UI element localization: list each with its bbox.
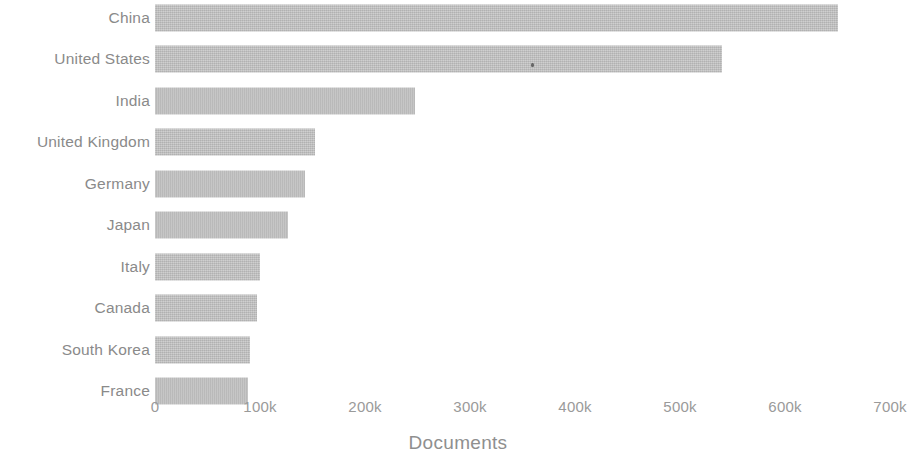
bar[interactable]: [155, 170, 305, 197]
x-axis-tick-label: 600k: [768, 398, 801, 415]
bar[interactable]: [155, 87, 415, 114]
bar[interactable]: [155, 4, 838, 31]
bar-category-label: China: [109, 9, 151, 27]
bar-track: [155, 170, 305, 197]
bar-row: United States: [0, 39, 916, 81]
x-axis-title: Documents: [0, 432, 916, 454]
bar-row: Japan: [0, 205, 916, 247]
x-axis-tick-label: 500k: [663, 398, 696, 415]
bar-category-label: South Korea: [62, 341, 150, 359]
bar-row: South Korea: [0, 329, 916, 371]
bar-track: [155, 87, 415, 114]
bar-track: [155, 129, 315, 156]
image-artifact-speck: [531, 63, 534, 67]
bar-row: United Kingdom: [0, 122, 916, 164]
bar-track: [155, 46, 722, 73]
bar-category-label: Germany: [85, 175, 150, 193]
x-axis-tick-label: 100k: [243, 398, 276, 415]
bar[interactable]: [155, 295, 257, 322]
bar-row: Italy: [0, 246, 916, 288]
x-axis-tick-label: 300k: [453, 398, 486, 415]
bar[interactable]: [155, 212, 288, 239]
bar-category-label: United Kingdom: [37, 133, 150, 151]
plot-area: ChinaUnited StatesIndiaUnited KingdomGer…: [0, 0, 916, 395]
bar-category-label: India: [115, 92, 150, 110]
bar[interactable]: [155, 129, 315, 156]
bar[interactable]: [155, 46, 722, 73]
bar-category-label: Italy: [121, 258, 150, 276]
bar-track: [155, 253, 260, 280]
bar-category-label: Canada: [95, 299, 151, 317]
x-axis-tick-label: 400k: [558, 398, 591, 415]
bar[interactable]: [155, 336, 250, 363]
bar-category-label: Japan: [107, 216, 150, 234]
bar-category-label: United States: [54, 50, 150, 68]
bar[interactable]: [155, 253, 260, 280]
x-axis-tick-label: 200k: [348, 398, 381, 415]
bar-track: [155, 336, 250, 363]
bar-row: India: [0, 80, 916, 122]
bar-track: [155, 4, 838, 31]
x-axis-tick-label: 700k: [873, 398, 906, 415]
x-axis: 0100k200k300k400k500k600k700k: [0, 398, 916, 424]
bar-track: [155, 295, 257, 322]
bar-track: [155, 212, 288, 239]
bar-row: Canada: [0, 288, 916, 330]
bar-row: China: [0, 0, 916, 39]
bar-chart: ChinaUnited StatesIndiaUnited KingdomGer…: [0, 0, 916, 467]
x-axis-tick-label: 0: [151, 398, 160, 415]
bar-row: Germany: [0, 163, 916, 205]
